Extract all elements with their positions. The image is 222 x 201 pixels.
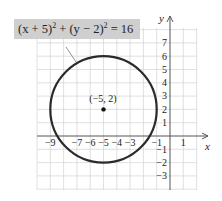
equation-term-x: (x + 5) bbox=[18, 22, 52, 36]
svg-text:−4: −4 bbox=[111, 137, 122, 148]
svg-text:3: 3 bbox=[162, 90, 167, 101]
svg-text:6: 6 bbox=[162, 51, 167, 62]
x-axis-label: x bbox=[204, 140, 210, 152]
svg-text:4: 4 bbox=[162, 77, 167, 88]
leader-line bbox=[66, 47, 76, 62]
center-point bbox=[101, 107, 105, 111]
svg-text:−3: −3 bbox=[156, 170, 167, 181]
svg-text:−6: −6 bbox=[85, 137, 96, 148]
svg-text:7: 7 bbox=[162, 37, 167, 48]
svg-text:−9: −9 bbox=[45, 137, 56, 148]
svg-text:−3: −3 bbox=[125, 137, 136, 148]
center-label: (−5, 2) bbox=[89, 93, 116, 105]
equation-term-y: (y − 2) bbox=[69, 22, 103, 36]
svg-text:2: 2 bbox=[162, 104, 167, 115]
svg-text:−7: −7 bbox=[72, 137, 83, 148]
y-axis-label: y bbox=[158, 12, 164, 24]
svg-text:1: 1 bbox=[162, 117, 167, 128]
svg-text:5: 5 bbox=[162, 64, 167, 75]
grid bbox=[37, 28, 197, 190]
svg-text:1: 1 bbox=[181, 137, 186, 148]
svg-text:−2: −2 bbox=[156, 157, 167, 168]
axes bbox=[37, 16, 208, 190]
equation-rhs: = 16 bbox=[111, 22, 134, 36]
svg-text:−1: −1 bbox=[156, 144, 167, 155]
equation-label: (x + 5)2 + (y − 2)2 = 16 bbox=[18, 21, 133, 37]
svg-text:−5: −5 bbox=[98, 137, 109, 148]
